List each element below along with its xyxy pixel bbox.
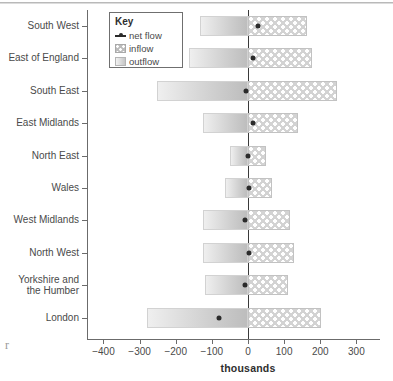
legend-title: Key xyxy=(115,16,178,28)
legend-label-inflow: inflow xyxy=(129,43,153,55)
bar-outflow xyxy=(200,16,248,36)
legend-item-net-flow: net flow xyxy=(115,29,178,42)
y-axis-label: North West xyxy=(0,247,79,258)
y-axis-label-wrap: Wales xyxy=(0,182,79,193)
net-flow-point xyxy=(244,88,249,93)
net-flow-point xyxy=(256,24,261,29)
y-axis-tick xyxy=(82,156,88,157)
net-flow-point xyxy=(242,283,247,288)
legend-key-box: Key net flow inflow outflow xyxy=(109,12,183,68)
bar-inflow xyxy=(248,308,321,328)
y-axis-label: West Midlands xyxy=(0,214,79,225)
bar-inflow xyxy=(248,243,294,263)
y-axis-label-wrap: East of England xyxy=(0,52,79,63)
net-flow-point xyxy=(217,315,222,320)
net-flow-marker-icon xyxy=(115,31,126,40)
bar-outflow xyxy=(203,210,248,230)
x-axis-tick-label: −200 xyxy=(156,346,196,357)
net-flow-point xyxy=(247,186,252,191)
x-axis-tick-label: 300 xyxy=(336,346,376,357)
y-axis-label-wrap: East Midlands xyxy=(0,117,79,128)
y-axis-label-wrap: North West xyxy=(0,247,79,258)
x-axis-tick-label: −400 xyxy=(83,346,123,357)
legend-label-net-flow: net flow xyxy=(129,30,162,42)
y-axis-label-wrap: West Midlands xyxy=(0,214,79,225)
x-axis-tick xyxy=(356,339,357,344)
net-flow-point xyxy=(251,121,256,126)
net-flow-point xyxy=(247,250,252,255)
net-flow-point xyxy=(251,56,256,61)
y-axis-label-wrap: Yorkshire and the Humber xyxy=(0,274,79,296)
y-axis-label: Wales xyxy=(0,182,79,193)
y-axis-label: North East xyxy=(0,150,79,161)
y-axis-tick xyxy=(82,58,88,59)
outflow-swatch-icon xyxy=(115,57,126,66)
net-flow-point xyxy=(243,218,248,223)
x-axis-tick xyxy=(176,339,177,344)
bar-outflow xyxy=(157,81,248,101)
bar-inflow xyxy=(248,210,290,230)
y-axis-tick xyxy=(82,253,88,254)
legend-label-outflow: outflow xyxy=(129,56,159,68)
bar-inflow xyxy=(248,48,312,68)
x-axis-tick xyxy=(284,339,285,344)
bar-outflow xyxy=(189,48,248,68)
x-axis-tick-label: 0 xyxy=(228,346,268,357)
y-axis-label: East Midlands xyxy=(0,117,79,128)
y-axis-label: London xyxy=(0,312,79,323)
x-axis-line xyxy=(87,339,380,340)
y-axis-label: South West xyxy=(0,20,79,31)
x-axis-tick xyxy=(212,339,213,344)
legend-item-outflow: outflow xyxy=(115,55,178,68)
x-axis-tick-label: 200 xyxy=(300,346,340,357)
y-axis-tick xyxy=(82,285,88,286)
plot-area: South WestEast of EnglandSouth EastEast … xyxy=(0,0,393,381)
y-axis-label-wrap: North East xyxy=(0,150,79,161)
net-flow-point xyxy=(246,153,251,158)
chart-root: r South WestEast of EnglandSouth EastEas… xyxy=(0,0,393,381)
x-axis-tick-label: 100 xyxy=(264,346,304,357)
legend-item-inflow: inflow xyxy=(115,42,178,55)
y-axis-label-wrap: South West xyxy=(0,20,79,31)
x-axis-tick-label: −100 xyxy=(192,346,232,357)
bar-outflow xyxy=(225,178,248,198)
y-axis-label: East of England xyxy=(0,52,79,63)
y-axis-tick xyxy=(82,91,88,92)
inflow-swatch-icon xyxy=(115,44,126,53)
y-axis-tick xyxy=(82,220,88,221)
x-axis-tick xyxy=(320,339,321,344)
y-axis-label: South East xyxy=(0,85,79,96)
x-axis-tick xyxy=(248,339,249,344)
y-axis-tick xyxy=(82,123,88,124)
y-axis-label-wrap: London xyxy=(0,312,79,323)
y-axis-tick xyxy=(82,318,88,319)
x-axis-title: thousands xyxy=(221,362,276,374)
bar-outflow xyxy=(203,243,248,263)
bar-outflow xyxy=(203,113,248,133)
x-axis-tick xyxy=(140,339,141,344)
y-axis-label-wrap: South East xyxy=(0,85,79,96)
bar-inflow xyxy=(248,146,266,166)
y-axis-tick xyxy=(82,26,88,27)
bar-inflow xyxy=(248,275,288,295)
y-axis-label: Yorkshire and the Humber xyxy=(0,274,79,296)
bar-inflow xyxy=(248,81,337,101)
bar-outflow xyxy=(147,308,248,328)
x-axis-tick-label: −300 xyxy=(120,346,160,357)
y-axis-tick xyxy=(82,188,88,189)
x-axis-tick xyxy=(103,339,104,344)
